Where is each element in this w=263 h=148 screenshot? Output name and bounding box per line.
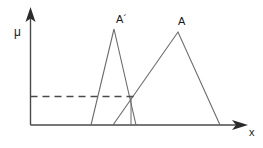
curve-label-a: A: [178, 16, 185, 27]
curve-label-a-prime: A´: [116, 14, 127, 25]
fuzzy-membership-diagram: [0, 0, 263, 148]
membership-curve-a-prime: [91, 29, 136, 125]
figure-container: μ A´ A x: [0, 0, 263, 148]
membership-curve-a: [113, 32, 220, 125]
x-axis-label: x: [249, 127, 255, 138]
y-axis-label: μ: [14, 26, 21, 38]
